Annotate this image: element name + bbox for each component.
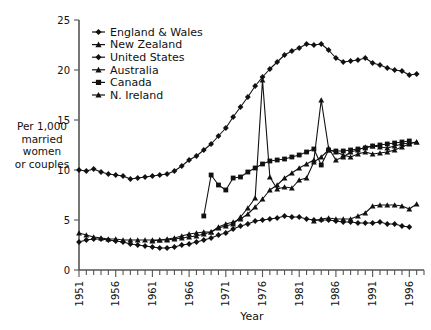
legend-item-australia[interactable]: Australia (92, 64, 159, 77)
y-axis-title-line-1: Per 1,000 (6, 120, 78, 133)
data-point (275, 158, 280, 163)
data-point (348, 58, 354, 64)
data-point (355, 220, 361, 226)
x-tick-label: 1976 (257, 281, 268, 306)
data-point (318, 97, 324, 102)
data-point (135, 242, 141, 248)
data-point (304, 150, 309, 155)
legend-item-canada[interactable]: Canada (92, 76, 152, 89)
data-point (304, 41, 310, 47)
legend-label: Canada (110, 76, 152, 89)
chart-legend: England & WalesNew ZealandUnited StatesA… (92, 26, 203, 102)
data-point (341, 149, 346, 154)
data-point (76, 239, 82, 245)
data-point (289, 155, 294, 160)
data-point (76, 230, 82, 235)
data-point (399, 223, 405, 229)
data-point (98, 236, 104, 242)
y-axis-title-line-2: married (6, 133, 78, 146)
series-n-ireland (311, 201, 420, 223)
data-point (406, 72, 412, 78)
data-point (238, 175, 243, 180)
data-point (326, 148, 331, 153)
data-point (334, 149, 339, 154)
data-point (186, 241, 192, 247)
data-point (150, 173, 156, 179)
data-point (98, 169, 104, 175)
data-point (289, 214, 295, 220)
data-point (384, 221, 390, 227)
data-point (282, 213, 288, 219)
data-point (362, 220, 368, 226)
data-point (216, 232, 222, 238)
data-point (377, 62, 383, 68)
data-point (105, 171, 111, 177)
legend-item-england-wales[interactable]: England & Wales (92, 26, 203, 39)
data-point (201, 214, 206, 219)
data-point (230, 226, 236, 232)
legend-item-n-ireland[interactable]: N. Ireland (92, 89, 163, 102)
y-tick-label: 25 (57, 15, 70, 26)
data-point (164, 171, 170, 177)
data-point (384, 65, 390, 71)
data-point (296, 165, 302, 170)
data-point (260, 217, 266, 223)
data-point (304, 175, 310, 180)
data-point (142, 243, 148, 249)
y-tick-label: 5 (64, 215, 70, 226)
x-tick-label: 1991 (367, 281, 378, 306)
data-point (319, 163, 324, 168)
data-point (252, 218, 258, 224)
data-point (127, 176, 133, 182)
data-point (385, 142, 390, 147)
legend-item-new-zealand[interactable]: New Zealand (92, 38, 182, 51)
series-united-states (76, 213, 412, 251)
data-point (172, 244, 178, 250)
legend-marker-diamond-icon (95, 29, 101, 35)
data-point (282, 157, 287, 162)
data-point (216, 224, 222, 229)
data-point (355, 57, 361, 63)
data-point (142, 174, 148, 180)
data-point (400, 140, 405, 145)
data-point (289, 48, 295, 54)
data-point (120, 173, 126, 179)
data-point (253, 166, 258, 171)
data-point (274, 215, 280, 221)
data-point (296, 45, 302, 51)
legend-marker-diamond-icon (95, 54, 101, 60)
data-point (223, 230, 229, 236)
x-tick-label: 1961 (147, 281, 158, 306)
data-point (304, 216, 310, 222)
data-point (245, 221, 251, 227)
data-point (113, 172, 119, 178)
divorce-rate-line-chart: Per 1,000 married women or couples 05101… (0, 0, 431, 330)
data-point (378, 143, 383, 148)
data-point (311, 147, 316, 152)
x-tick-label: 1981 (294, 281, 305, 306)
data-point (238, 223, 244, 229)
data-point (267, 159, 272, 164)
data-point (392, 141, 397, 146)
data-point (245, 170, 250, 175)
data-point (91, 166, 97, 172)
data-point (377, 219, 383, 225)
data-point (209, 173, 214, 178)
y-tick-label: 20 (57, 65, 70, 76)
data-point (157, 245, 163, 251)
legend-item-united-states[interactable]: United States (92, 51, 185, 64)
x-tick-label: 1966 (184, 281, 195, 306)
data-point (355, 213, 361, 218)
data-point (267, 216, 273, 222)
data-point (414, 71, 420, 77)
data-point (370, 220, 376, 226)
data-point (392, 67, 398, 73)
legend-label: England & Wales (110, 26, 203, 39)
data-point (304, 161, 310, 166)
x-tick-label: 1971 (220, 281, 231, 306)
data-point (231, 176, 236, 181)
data-point (194, 239, 200, 245)
data-point (407, 139, 412, 144)
data-point (297, 153, 302, 158)
data-point (311, 42, 317, 48)
